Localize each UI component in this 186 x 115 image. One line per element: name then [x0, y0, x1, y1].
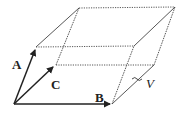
edge-cb-top [154, 7, 175, 65]
edge-ab-top [134, 7, 175, 46]
parallelepiped-diagram: A C B V [0, 0, 186, 115]
edge-top-front [36, 46, 134, 47]
label-v: V [146, 77, 154, 90]
edge-top-back [79, 7, 175, 8]
label-b: B [95, 91, 104, 104]
edge-a-top [36, 8, 79, 47]
vector-c [14, 67, 53, 104]
edge-c-top [56, 8, 79, 65]
label-a: A [12, 58, 21, 71]
diagram-canvas [0, 0, 186, 115]
edge-b-ab [112, 46, 134, 104]
label-c: C [51, 78, 60, 91]
